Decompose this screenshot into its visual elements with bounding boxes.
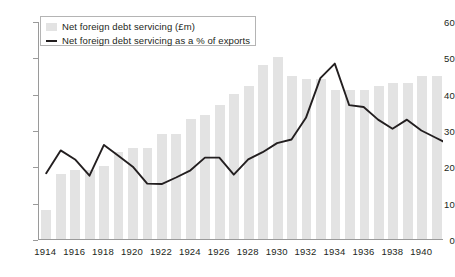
x-axis-tick-label: 1936 (352, 246, 374, 257)
bar (302, 79, 312, 239)
bar-swatch-icon (46, 23, 57, 31)
plot-area (38, 22, 443, 240)
bar (85, 170, 95, 239)
bar (432, 76, 442, 240)
bar (374, 86, 384, 239)
bar (70, 170, 80, 239)
x-axis-tick-label: 1916 (63, 246, 85, 257)
x-axis-tick-label: 1934 (324, 246, 346, 257)
bar (229, 94, 239, 239)
bar (287, 76, 297, 240)
bar (171, 134, 181, 239)
bar (56, 174, 66, 239)
bar (360, 90, 370, 239)
legend-item-line: Net foreign debt servicing as a % of exp… (46, 34, 250, 47)
bar (99, 166, 109, 239)
bar (258, 65, 268, 239)
bar (128, 148, 138, 239)
bar (157, 134, 167, 239)
bar (316, 79, 326, 239)
legend-label-bars: Net foreign debt servicing (£m) (62, 21, 195, 32)
legend-label-line: Net foreign debt servicing as a % of exp… (62, 35, 250, 46)
bar (244, 86, 254, 239)
bar (143, 148, 153, 239)
bar (403, 83, 413, 239)
bar (41, 210, 51, 239)
bar (200, 115, 210, 239)
bar (114, 152, 124, 239)
x-axis-tick-label: 1940 (410, 246, 432, 257)
bar (388, 83, 398, 239)
x-axis-tick-label: 1922 (150, 246, 172, 257)
bar (331, 90, 341, 239)
x-axis-tick-label: 1932 (295, 246, 317, 257)
y-axis-tick-mark (33, 240, 38, 241)
chart-legend: Net foreign debt servicing (£m) Net fore… (40, 16, 256, 46)
chart-container: 0102030405060 19141916191819201922192419… (0, 0, 455, 277)
x-axis-tick-label: 1924 (179, 246, 201, 257)
bar (273, 57, 283, 239)
bar (345, 90, 355, 239)
x-axis-tick-label: 1918 (92, 246, 114, 257)
bar (186, 119, 196, 239)
bar (417, 76, 427, 240)
x-axis-tick-label: 1928 (237, 246, 259, 257)
x-axis-tick-label: 1930 (266, 246, 288, 257)
x-axis-tick-label: 1920 (121, 246, 143, 257)
bar (215, 105, 225, 239)
line-swatch-icon (46, 40, 57, 42)
x-axis-tick-label: 1914 (34, 246, 56, 257)
x-axis-tick-label: 1926 (208, 246, 230, 257)
bar-series-net-foreign-debt-servicing (39, 22, 443, 239)
legend-item-bars: Net foreign debt servicing (£m) (46, 20, 250, 33)
x-axis-tick-label: 1938 (381, 246, 403, 257)
